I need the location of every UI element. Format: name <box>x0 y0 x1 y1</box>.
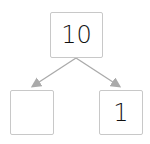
left-part-box[interactable] <box>10 90 54 135</box>
right-part-box: 1 <box>99 90 143 135</box>
whole-value: 10 <box>61 21 92 49</box>
arrow-to-right-part <box>76 58 119 86</box>
right-part-value: 1 <box>113 99 128 127</box>
arrow-to-left-part <box>33 58 76 86</box>
whole-box: 10 <box>50 12 103 58</box>
